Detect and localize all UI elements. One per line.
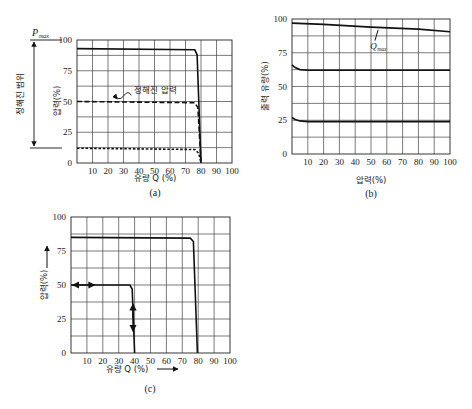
x-tick-label: 70 [178, 356, 188, 366]
y-tick-label: 25 [57, 314, 67, 324]
y-tick-label: 100 [53, 212, 67, 222]
y-tick-label: 75 [63, 66, 73, 76]
y-tick-label: 0 [283, 149, 288, 159]
figure-caption: (b) [365, 188, 377, 200]
y-tick-label: 25 [63, 127, 73, 137]
x-tick-label: 10 [303, 157, 313, 167]
x-tick-label: 70 [181, 166, 191, 176]
x-tick-label: 10 [82, 356, 92, 366]
y-tick-label: 75 [57, 246, 67, 256]
x-tick-label: 60 [162, 356, 172, 366]
y-axis-label: 압력(%) [52, 86, 62, 117]
range-label: 정해진 범위 [15, 73, 25, 116]
x-tick-label: 90 [210, 356, 220, 366]
x-tick-label: 90 [430, 157, 440, 167]
figure-caption: (c) [144, 383, 155, 395]
chart-b-flow-vs-pressure: 1020304050607080901000255075100압력(%)출력 유… [260, 14, 457, 200]
grid [292, 19, 450, 154]
x-tick-label: 90 [212, 166, 222, 176]
x-tick-label: 30 [335, 157, 345, 167]
x-tick-label: 20 [104, 166, 114, 176]
y-tick-label: 25 [278, 115, 288, 125]
x-tick-label: 60 [382, 157, 392, 167]
y-axis-label: 출력 유량(%) [260, 61, 270, 110]
x-tick-label: 80 [414, 157, 424, 167]
x-axis-label: 압력(%) [356, 175, 387, 185]
pmax-subscript: max [39, 33, 49, 39]
x-tick-label: 30 [119, 166, 129, 176]
y-tick-label: 100 [274, 14, 288, 24]
x-tick-label: 40 [351, 157, 361, 167]
qmax-label: Q [370, 41, 377, 51]
y-tick-label: 0 [68, 158, 73, 168]
y-tick-label: 50 [57, 280, 67, 290]
x-tick-label: 80 [197, 166, 207, 176]
x-tick-label: 80 [194, 356, 204, 366]
x-tick-label: 100 [443, 157, 457, 167]
x-tick-label: 70 [398, 157, 408, 167]
annotation-arrow [114, 93, 131, 99]
qmax-leader [375, 30, 378, 41]
y-tick-label: 0 [62, 348, 67, 358]
chart-a-pressure-vs-flow: 1020304050607080901000255075100유량 Q (%)압… [52, 35, 239, 199]
qmax-subscript: max [377, 46, 387, 52]
x-tick-label: 10 [88, 166, 98, 176]
y-axis-label: 압력(%) [39, 270, 49, 301]
y-tick-label: 50 [63, 97, 73, 107]
x-axis-label: 유량 Q (%) [106, 364, 149, 374]
x-tick-label: 50 [367, 157, 377, 167]
chart-figure: 1020304050607080901000255075100유량 Q (%)압… [0, 0, 472, 409]
chart-c-pressure-vs-flow: 1020304050607080901000255075100유량 Q (%)압… [39, 212, 237, 395]
figure-caption: (a) [149, 187, 160, 199]
y-tick-label: 75 [278, 48, 288, 58]
y-tick-label: 50 [278, 82, 288, 92]
x-axis-label: 유량 Q (%) [134, 173, 177, 183]
pmax-label: P [31, 27, 38, 38]
x-tick-label: 100 [223, 356, 237, 366]
set-pressure-annotation: 정해진 압력 [134, 85, 177, 95]
x-tick-label: 20 [319, 157, 329, 167]
x-tick-label: 100 [225, 166, 239, 176]
